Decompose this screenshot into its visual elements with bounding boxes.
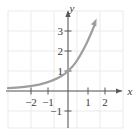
y-tick-label-3: 3: [58, 25, 64, 37]
x-axis: [6, 88, 122, 95]
y-tick-label-1: 1: [58, 65, 64, 77]
graph-canvas: −2 −1 1 2 −1 1 2 3 x y: [0, 0, 140, 134]
graph-figure: −2 −1 1 2 −1 1 2 3 x y: [0, 0, 140, 134]
x-axis-label: x: [127, 85, 133, 97]
y-tick-label-2: 2: [58, 45, 64, 57]
x-tick-label-1: 1: [85, 96, 91, 108]
y-axis-label: y: [69, 2, 75, 14]
y-tick-label-neg1: −1: [50, 105, 62, 117]
x-tick-label-2: 2: [102, 96, 108, 108]
x-axis-arrow-icon: [116, 88, 122, 93]
curve-exponential: [8, 19, 97, 89]
grid-lines: [8, 11, 123, 128]
x-tick-label-neg2: −2: [25, 96, 37, 108]
curve-arrow-icon: [91, 19, 97, 27]
